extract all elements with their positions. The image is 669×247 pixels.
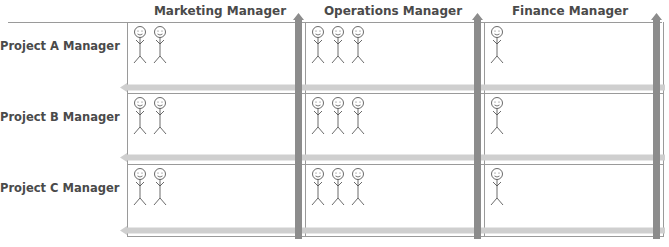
cell-1-1 [310, 97, 366, 139]
column-header-finance-manager: Finance Manager [500, 4, 640, 18]
cell-2-1 [310, 168, 366, 210]
row-header-project-a-manager: Project A Manager [0, 39, 116, 53]
horizontal-arrow-project-c [120, 225, 665, 236]
stick-figure-icon [310, 168, 326, 210]
column-separator-2 [484, 22, 485, 237]
cell-2-2 [489, 168, 505, 210]
horizontal-arrow-project-a [120, 82, 665, 93]
cell-0-0 [132, 26, 168, 68]
stick-figure-icon [330, 168, 346, 210]
stick-figure-icon [310, 97, 326, 139]
stick-figure-icon [330, 97, 346, 139]
horizontal-arrow-project-b [120, 152, 665, 163]
cell-1-0 [132, 97, 168, 139]
cell-0-1 [310, 26, 366, 68]
grid-left-border [127, 22, 128, 237]
column-separator-3 [663, 22, 664, 237]
stick-figure-icon [152, 97, 168, 139]
vertical-arrow-marketing [293, 13, 304, 239]
stick-figure-icon [132, 168, 148, 210]
stick-figure-icon [132, 97, 148, 139]
top-border-line [8, 22, 662, 23]
stick-figure-icon [350, 26, 366, 68]
cell-1-2 [489, 97, 505, 139]
stick-figure-icon [489, 26, 505, 68]
row-header-project-c-manager: Project C Manager [0, 181, 116, 195]
stick-figure-icon [132, 26, 148, 68]
stick-figure-icon [152, 168, 168, 210]
row-header-project-b-manager: Project B Manager [0, 110, 116, 124]
row-separator-1 [127, 93, 663, 94]
cell-2-0 [132, 168, 168, 210]
row-separator-3 [127, 236, 663, 237]
column-header-marketing-manager: Marketing Manager [150, 4, 290, 18]
stick-figure-icon [350, 97, 366, 139]
vertical-arrow-operations [472, 13, 483, 239]
vertical-arrow-finance [651, 13, 662, 239]
stick-figure-icon [489, 168, 505, 210]
stick-figure-icon [152, 26, 168, 68]
stick-figure-icon [489, 97, 505, 139]
column-separator-1 [305, 22, 306, 237]
cell-0-2 [489, 26, 505, 68]
stick-figure-icon [310, 26, 326, 68]
row-separator-2 [127, 164, 663, 165]
column-header-operations-manager: Operations Manager [318, 4, 468, 18]
stick-figure-icon [330, 26, 346, 68]
stick-figure-icon [350, 168, 366, 210]
